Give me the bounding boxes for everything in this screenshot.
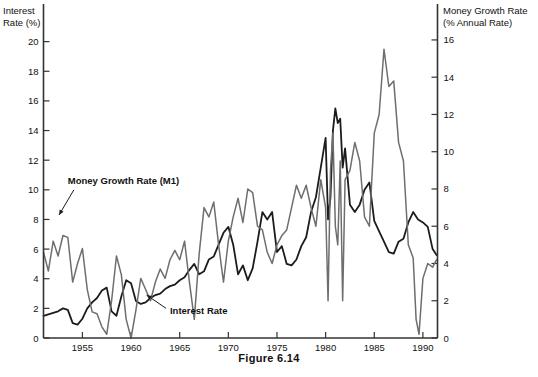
- x-tick-label: 1980: [315, 342, 336, 352]
- x-tick-label: 1965: [169, 342, 190, 352]
- right-tick-label: 16: [444, 34, 455, 45]
- left-tick-label: 4: [33, 273, 38, 284]
- x-tick-label: 1955: [72, 342, 93, 352]
- x-tick-label: 1985: [364, 342, 385, 352]
- x-tick-label: 1970: [218, 342, 239, 352]
- right-tick-label: 10: [444, 146, 455, 157]
- x-tick-label: 1990: [412, 342, 433, 352]
- right-tick-label: 6: [444, 221, 449, 232]
- right-tick-label: 12: [444, 109, 455, 120]
- right-tick-label: 2: [444, 295, 449, 306]
- left-axis-title-line1: Interest: [3, 5, 35, 16]
- left-tick-label: 18: [28, 66, 39, 77]
- x-tick-label: 1960: [120, 342, 141, 352]
- right-axis-title-line2: (% Annual Rate): [443, 17, 512, 28]
- left-tick-label: 20: [28, 36, 39, 47]
- left-tick-label: 14: [28, 125, 39, 136]
- right-tick-label: 8: [444, 183, 449, 194]
- left-tick-label: 2: [33, 303, 38, 314]
- right-tick-label: 14: [444, 72, 455, 83]
- right-axis-title-line1: Money Growth Rate: [443, 5, 527, 16]
- left-tick-label: 0: [33, 333, 38, 344]
- right-tick-label: 0: [444, 333, 449, 344]
- left-axis-title-line2: Rate (%): [3, 17, 40, 28]
- left-tick-label: 12: [28, 155, 39, 166]
- left-tick-label: 6: [33, 244, 38, 255]
- figure-container: Interest Rate (%) Money Growth Rate (% A…: [0, 0, 538, 377]
- annotation-label-interest-rate: Interest Rate: [170, 305, 228, 316]
- figure-caption: Figure 6.14: [0, 352, 538, 364]
- x-tick-label: 1975: [266, 342, 287, 352]
- interest-rate-money-growth-chart: Interest Rate (%) Money Growth Rate (% A…: [0, 0, 538, 352]
- left-tick-label: 16: [28, 95, 39, 106]
- annotation-label-money-growth: Money Growth Rate (M1): [68, 175, 179, 186]
- right-tick-label: 4: [444, 258, 449, 269]
- left-tick-label: 8: [33, 214, 38, 225]
- left-tick-label: 10: [28, 184, 39, 195]
